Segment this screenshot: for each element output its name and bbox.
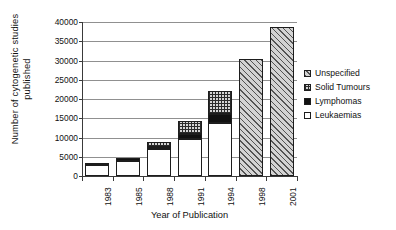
legend-item-label: Leukaemias — [315, 110, 361, 120]
bar[interactable] — [116, 158, 140, 176]
bar-segment — [85, 165, 109, 176]
y-axis-tick-mark — [79, 61, 83, 62]
legend-swatch-icon — [304, 70, 311, 77]
y-axis-tick-label: 25000 — [38, 76, 78, 84]
y-axis-tick-label: 10000 — [38, 134, 78, 142]
x-axis-tick-label: 1985 — [133, 176, 145, 206]
bar-segment — [208, 114, 232, 122]
y-axis-tick-label: 20000 — [38, 95, 78, 103]
y-axis-tick-mark — [79, 80, 83, 81]
legend-item[interactable]: Unspecified — [304, 66, 394, 80]
y-axis-tick-mark — [79, 118, 83, 119]
y-axis-tick-mark — [79, 157, 83, 158]
bar-segment — [270, 27, 294, 176]
bar-segment — [116, 161, 140, 176]
x-axis-tick-label: 1983 — [102, 176, 114, 206]
bar-segment — [178, 134, 202, 139]
y-axis-tick-label: 30000 — [38, 57, 78, 65]
y-axis-tick-labels: 0500010000150002000025000300003500040000 — [38, 0, 78, 230]
legend-swatch-icon — [304, 98, 311, 105]
gridline — [83, 118, 297, 119]
legend-item-label: Solid Tumours — [315, 82, 370, 92]
legend-item-label: Lymphomas — [315, 96, 362, 106]
y-axis-tick-label: 40000 — [38, 18, 78, 26]
bar-segment — [178, 121, 202, 134]
bar[interactable] — [85, 163, 109, 176]
y-axis-title-line-2: published — [22, 0, 34, 174]
legend-item-label: Unspecified — [315, 68, 360, 78]
bar-segment — [239, 59, 263, 176]
bar-segment — [208, 123, 232, 176]
legend-item[interactable]: Lymphomas — [304, 94, 394, 108]
bar-chart: Number of cytogenetic studies published … — [0, 0, 396, 230]
y-axis-tick-mark — [79, 41, 83, 42]
legend-item[interactable]: Solid Tumours — [304, 80, 394, 94]
gridline — [83, 22, 297, 23]
x-axis-tick-label: 1998 — [256, 176, 268, 206]
x-axis-tick-labels: 1983198519881991199419982001 — [82, 178, 297, 208]
legend-swatch-icon — [304, 84, 311, 91]
y-axis-tick-mark — [79, 22, 83, 23]
x-axis-tick-label: 1994 — [225, 176, 237, 206]
y-axis-tick-label: 15000 — [38, 114, 78, 122]
bar[interactable] — [178, 121, 202, 176]
gridline — [83, 99, 297, 100]
x-axis-tick-label: 1988 — [164, 176, 176, 206]
x-axis-title: Year of Publication — [82, 210, 297, 220]
bar-segment — [147, 142, 171, 147]
x-axis-tick-label: 2001 — [287, 176, 299, 206]
gridline — [83, 80, 297, 81]
y-axis-tick-label: 5000 — [38, 153, 78, 161]
legend-item[interactable]: Leukaemias — [304, 108, 394, 122]
gridline — [83, 41, 297, 42]
bar[interactable] — [270, 27, 294, 176]
y-axis-title-line-1: Number of cytogenetic studies — [10, 14, 20, 144]
bar-segment — [208, 91, 232, 114]
legend-swatch-icon — [304, 112, 311, 119]
legend: UnspecifiedSolid TumoursLymphomasLeukaem… — [304, 66, 394, 122]
bar-segment — [178, 139, 202, 176]
bar[interactable] — [208, 91, 232, 176]
bar[interactable] — [239, 59, 263, 176]
y-axis-tick-label: 0 — [38, 172, 78, 180]
gridline — [83, 61, 297, 62]
plot-area — [82, 22, 297, 177]
y-axis-tick-mark — [79, 99, 83, 100]
x-axis-tick-label: 1991 — [195, 176, 207, 206]
y-axis-tick-label: 35000 — [38, 37, 78, 45]
bar-segment — [116, 158, 140, 160]
bar-segment — [85, 163, 109, 165]
bar-segment — [147, 149, 171, 176]
bar-segment — [147, 147, 171, 149]
y-axis-tick-mark — [79, 138, 83, 139]
bar[interactable] — [147, 142, 171, 176]
